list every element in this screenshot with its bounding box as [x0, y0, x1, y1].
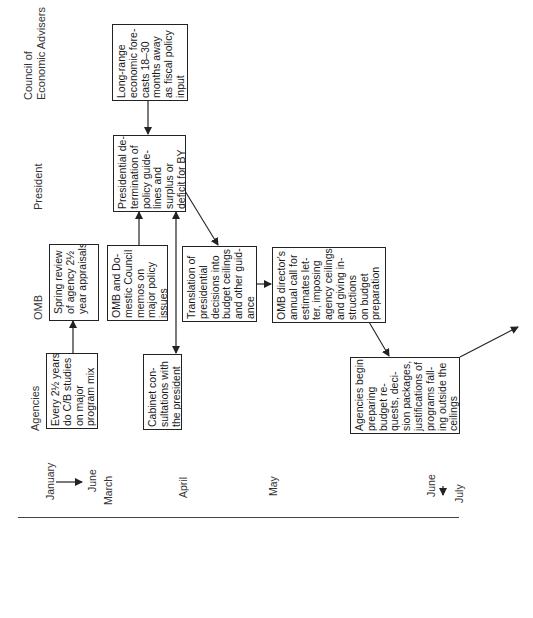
box-omb-translation: Translation of presidential decisions in…: [182, 246, 257, 322]
box-cea-forecasts: Long-range economic fore- casts 18–30 mo…: [112, 24, 188, 101]
bottom-divider: [18, 517, 459, 518]
box-text: Long-range economic fore- casts 18–30 mo…: [113, 25, 188, 101]
box-agencies-cabinet: Cabinet con- sultations with the preside…: [143, 354, 182, 430]
arrow-president-to-translation: [185, 191, 218, 245]
box-omb-director-call: OMB director's annual call for estimates…: [272, 247, 386, 323]
arrow-director-to-agencies: [369, 322, 389, 356]
month-may: May: [267, 476, 279, 496]
month-april: April: [177, 477, 189, 498]
box-omb-spring-review: Spring review of agency 2½ year appraisa…: [49, 244, 99, 321]
month-january: January: [44, 463, 56, 500]
arrow-agencies-to-next: [460, 327, 518, 357]
box-text: Every 2½ years, do C/B studies on major …: [47, 354, 98, 429]
box-text: Translation of presidential decisions in…: [183, 247, 257, 322]
box-text: Cabinet con- sultations with the preside…: [144, 355, 182, 430]
box-text: Agencies begin preparing budget re- ques…: [351, 358, 460, 434]
row-label-agencies: Agencies: [29, 386, 42, 431]
row-label-cea: Council of Economic Advisers: [22, 7, 47, 100]
month-march: March: [102, 476, 114, 505]
box-text: OMB director's annual call for estimates…: [273, 248, 385, 323]
row-label-president: President: [32, 164, 45, 210]
box-agencies-cb-studies: Every 2½ years, do C/B studies on major …: [46, 353, 98, 429]
box-text: OMB and Do- mestic Council memos on majo…: [108, 246, 168, 321]
box-agencies-begin: Agencies begin preparing budget re- ques…: [350, 357, 460, 434]
month-july: July: [453, 484, 465, 503]
month-june-2: June: [425, 474, 437, 497]
month-june-1: June: [86, 469, 98, 492]
row-label-omb: OMB: [32, 295, 45, 320]
box-text: Spring review of agency 2½ year appraisa…: [50, 245, 91, 321]
box-omb-domestic-council: OMB and Do- mestic Council memos on majo…: [107, 245, 168, 321]
budget-process-diagram: Council of Economic Advisers President O…: [0, 0, 533, 618]
box-text: Presidential de- termination of policy g…: [114, 136, 186, 212]
box-president-determination: Presidential de- termination of policy g…: [113, 135, 186, 212]
